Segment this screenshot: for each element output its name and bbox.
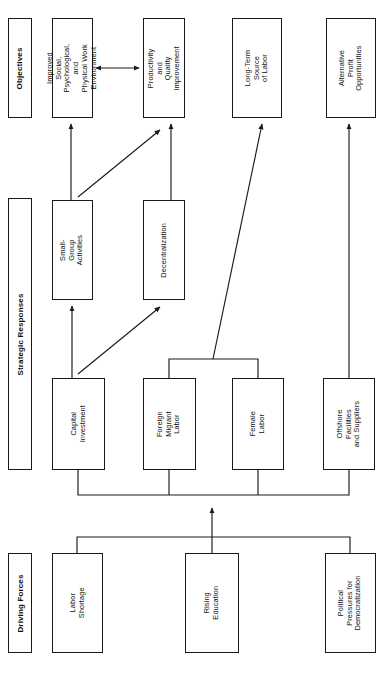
diagram-canvas: Objectives Strategic Responses Driving F… [0, 0, 386, 687]
node-female-labor-label: Female Labor [249, 399, 266, 449]
node-female-labor[interactable]: Female Labor [232, 378, 284, 470]
node-offshore-facilities-and-suppliers[interactable]: Offshore Facilities and Suppliers [323, 378, 375, 470]
node-long-term-source-of-labor-label: Long-Term Source of Labor [244, 44, 270, 92]
node-labor-shortage-label: Labor Shortage [69, 579, 86, 628]
node-long-term-source-of-labor[interactable]: Long-Term Source of Labor [232, 18, 282, 118]
node-small-group-activities[interactable]: Small-Group Activities [52, 200, 93, 300]
node-alternative-profit-opportunities-label: Alternative Profit Opportunities [338, 44, 364, 92]
node-labor-shortage[interactable]: Labor Shortage [52, 553, 103, 653]
node-rising-education-label: Rising Education [203, 577, 220, 629]
node-political-pressures-for-democratization[interactable]: Political Pressures for Democratization [325, 553, 376, 653]
node-improved-work-environment-label: Improved Social, Psychological, and Phys… [46, 44, 98, 93]
node-offshore-facilities-and-suppliers-label: Offshore Facilities and Suppliers [336, 399, 362, 449]
node-alternative-profit-opportunities[interactable]: Alternative Profit Opportunities [326, 18, 376, 118]
node-capital-investment[interactable]: Capital Investment [52, 378, 105, 470]
node-capital-investment-label: Capital Investment [70, 399, 87, 450]
node-small-group-activities-label: Small-Group Activities [59, 230, 85, 269]
node-productivity-quality-label: Productivity and Quality Improvement [147, 46, 182, 90]
node-productivity-quality[interactable]: Productivity and Quality Improvement [143, 18, 185, 118]
node-foreign-migrant-labor-label: Foreign Migrant Labor [156, 398, 182, 449]
node-rising-education[interactable]: Rising Education [185, 553, 239, 653]
node-decentralization-label: Decentralization [160, 223, 169, 278]
node-political-pressures-for-democratization-label: Political Pressures for Democratization [337, 576, 363, 631]
node-improved-work-environment[interactable]: Improved Social, Psychological, and Phys… [52, 18, 93, 118]
node-layer: Improved Social, Psychological, and Phys… [0, 0, 386, 687]
node-foreign-migrant-labor[interactable]: Foreign Migrant Labor [143, 378, 196, 470]
node-decentralization[interactable]: Decentralization [143, 200, 185, 300]
